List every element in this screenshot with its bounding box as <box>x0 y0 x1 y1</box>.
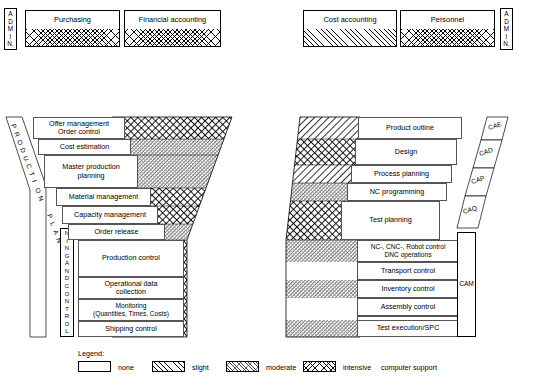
legend-swatch-slight <box>152 361 185 372</box>
left-row-capacity-management[interactable]: Capacity management <box>62 206 158 224</box>
top-box-cost-accounting[interactable]: Cost accounting <box>303 10 397 47</box>
top-box-label: Financial accounting <box>125 11 220 30</box>
left-row-monitoring[interactable]: Monitoring (Quantities, Times, Costs) <box>78 299 184 321</box>
left-axis-vertical-label: N I N G A N D C O N T R O L <box>60 228 74 337</box>
svg-text:I: I <box>31 179 38 183</box>
svg-text:N: N <box>37 195 45 202</box>
svg-text:P: P <box>10 123 18 130</box>
axis-letter: L <box>65 328 68 334</box>
axis-letter: R <box>65 313 69 319</box>
left-row-material-management[interactable]: Material management <box>56 188 151 206</box>
right-row-product-outline[interactable]: Product outline <box>358 117 462 139</box>
svg-text:L: L <box>49 221 57 227</box>
svg-text:R: R <box>13 131 21 138</box>
axis-letter: D <box>65 275 69 281</box>
legend-label-none: none <box>118 363 134 372</box>
admin-right-letter: M <box>504 25 509 32</box>
support-swatch-slight <box>304 29 396 47</box>
admin-right-letter: A <box>504 10 508 17</box>
ca-tag-cad[interactable]: CAD <box>474 143 499 161</box>
admin-right-letter: D <box>504 18 509 25</box>
left-row-operational-data[interactable]: Operational data collection <box>78 277 184 299</box>
top-box-label: Purchasing <box>26 11 119 30</box>
svg-text:C: C <box>25 163 33 170</box>
diagram-canvas: A D M I N. Purchasing Financial accounti… <box>0 0 535 385</box>
admin-left-letter: N. <box>7 40 13 47</box>
right-row-transport-control[interactable]: Transport control <box>357 262 459 280</box>
legend-suffix: computer support <box>381 363 437 372</box>
admin-right-letter: N. <box>503 40 509 47</box>
legend-label-slight: slight <box>192 363 209 372</box>
support-swatch-intensive <box>125 29 220 47</box>
admin-left-letter: M <box>8 25 13 32</box>
left-row-order-release[interactable]: Order release <box>68 224 165 240</box>
svg-text:U: U <box>22 155 30 162</box>
top-box-personnel[interactable]: Personnel <box>400 10 495 47</box>
legend-label-moderate: moderate <box>266 363 296 372</box>
left-row-offer-management[interactable]: Offer management Order control <box>33 117 125 139</box>
support-swatch-intensive <box>26 29 119 47</box>
legend-swatch-none <box>78 361 111 372</box>
axis-letter: C <box>65 283 69 289</box>
right-row-process-planning[interactable]: Process planning <box>351 165 452 183</box>
axis-letter: A <box>65 260 69 266</box>
axis-letter: O <box>65 291 70 297</box>
admin-right-letter: I <box>506 33 508 40</box>
right-row-test-execution[interactable]: Test execution/SPC <box>357 320 459 337</box>
right-row-test-planning[interactable]: Test planning <box>341 201 440 240</box>
ca-tag-cam[interactable]: CAM <box>457 232 476 337</box>
top-box-purchasing[interactable]: Purchasing <box>25 10 120 47</box>
ca-tag-caq[interactable]: CAQ <box>458 201 483 219</box>
admin-left-letter: A <box>8 10 12 17</box>
svg-text:O: O <box>34 187 42 194</box>
legend-title: Legend: <box>78 349 104 358</box>
support-swatch-intensive <box>401 29 494 47</box>
legend-label-intensive: intensive <box>343 363 371 372</box>
left-row-production-control[interactable]: Production control <box>78 240 184 277</box>
ca-tag-cae[interactable]: CAE <box>483 117 508 135</box>
axis-letter: G <box>65 253 70 259</box>
legend-swatch-intensive <box>303 361 336 372</box>
axis-letter: N <box>65 298 69 304</box>
right-row-design[interactable]: Design <box>355 139 457 165</box>
left-row-shipping-control[interactable]: Shipping control <box>78 321 184 337</box>
axis-letter: O <box>65 321 70 327</box>
left-row-master-production[interactable]: Master production planning <box>44 155 138 188</box>
svg-text:P: P <box>46 213 54 220</box>
axis-letter: T <box>65 306 69 312</box>
top-box-financial-accounting[interactable]: Financial accounting <box>124 10 221 47</box>
left-row-cost-estimation[interactable]: Cost estimation <box>38 139 131 155</box>
admin-left-letter: D <box>8 18 13 25</box>
right-row-nc-programming[interactable]: NC programming <box>347 183 447 201</box>
svg-text:D: D <box>19 147 27 154</box>
axis-letter: N <box>65 245 69 251</box>
legend-swatch-moderate <box>226 361 259 372</box>
top-box-label: Personnel <box>401 11 494 30</box>
top-box-label: Cost accounting <box>304 11 396 30</box>
axis-letter: N <box>65 268 69 274</box>
admin-left-label: A D M I N. <box>4 8 17 50</box>
svg-text:O: O <box>16 139 24 146</box>
right-row-inventory-control[interactable]: Inventory control <box>357 280 459 298</box>
ca-tag-cap[interactable]: CAP <box>466 171 491 189</box>
svg-text:T: T <box>28 171 36 177</box>
right-row-nc-cnc-robot[interactable]: NC-, CNC-, Robot control DNC operations <box>357 240 459 262</box>
admin-right-label: A D M I N. <box>500 8 513 50</box>
admin-left-letter: I <box>10 33 12 40</box>
right-row-assembly-control[interactable]: Assembly control <box>357 298 459 316</box>
